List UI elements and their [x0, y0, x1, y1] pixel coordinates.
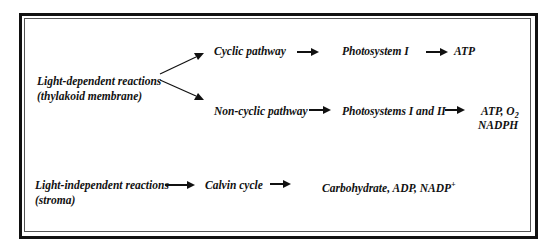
light-independent-location: (stroma)	[35, 193, 75, 207]
photosystem-i-label: Photosystem I	[342, 44, 409, 58]
light-dependent-location: (thylakoid membrane)	[37, 89, 142, 103]
light-independent-products: Carbohydrate, ADP, NADP+	[322, 178, 456, 195]
arrow-icon	[445, 109, 463, 111]
cyclic-products: ATP	[454, 44, 475, 58]
non-cyclic-pathway-label: Non-cyclic pathway	[214, 104, 308, 118]
arrow-icon	[309, 109, 329, 111]
calvin-cycle-label: Calvin cycle	[205, 178, 263, 192]
light-independent-label: Light-independent reactions	[35, 178, 169, 192]
photosystems-i-ii-label: Photosystems I and II	[342, 104, 446, 118]
non-cyclic-products-line2: NADPH	[478, 118, 518, 132]
arrow-icon	[270, 183, 289, 185]
cyclic-pathway-label: Cyclic pathway	[214, 44, 286, 58]
light-dependent-label: Light-dependent reactions	[37, 74, 161, 88]
arrow-icon	[165, 184, 193, 186]
arrow-icon	[297, 51, 317, 53]
branch-arrows	[0, 0, 556, 252]
arrow-icon	[426, 51, 446, 53]
